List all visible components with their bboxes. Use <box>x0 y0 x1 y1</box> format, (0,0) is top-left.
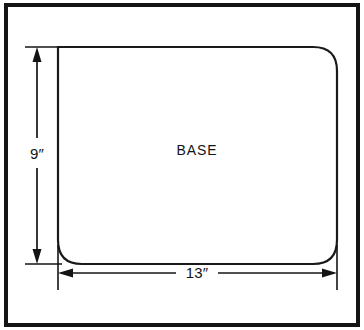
figure-root: BASE 9″ 13″ <box>0 0 364 330</box>
width-dimension-label: 13″ <box>186 264 209 281</box>
height-dimension-label: 9″ <box>30 145 45 162</box>
part-label: BASE <box>177 142 218 158</box>
dimension-drawing-canvas: BASE 9″ 13″ <box>0 0 364 330</box>
